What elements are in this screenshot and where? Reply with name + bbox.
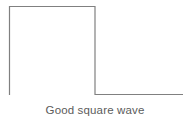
figure-caption: Good square wave: [0, 102, 190, 118]
square-wave-figure: Good square wave: [0, 0, 190, 129]
waveform-svg: [0, 0, 190, 100]
square-wave-trace: [10, 7, 184, 96]
waveform-plot: [0, 0, 190, 100]
